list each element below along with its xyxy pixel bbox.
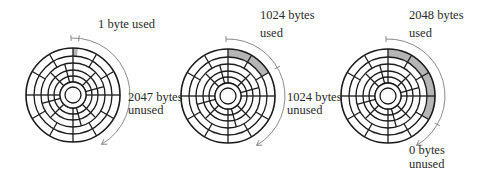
sector-line [401, 88, 419, 93]
sector-line [347, 112, 360, 120]
arrowhead-icon [102, 139, 108, 144]
sector-line [365, 124, 373, 137]
sector-line [205, 124, 213, 137]
sector-line [365, 55, 373, 68]
disk-2-unused-label-line1: 1024 bytes [287, 90, 342, 104]
sector-line [197, 99, 215, 104]
sector-line [241, 88, 259, 93]
hub-ring [380, 88, 396, 104]
sector-line [50, 54, 58, 67]
disk-3 [341, 36, 445, 145]
sector-line [357, 99, 375, 104]
hub-ring [65, 87, 81, 103]
disk-1-unused-label-line1: 2047 bytes [128, 90, 183, 104]
disk-2-used-label-line2: used [260, 26, 284, 40]
sector-line [347, 73, 360, 81]
sector-line [205, 55, 213, 68]
sector-line [42, 98, 60, 103]
sector-line [101, 72, 114, 80]
sector-line [380, 65, 385, 83]
used-sector-fill [388, 49, 435, 120]
arrow-split-tick [79, 35, 80, 41]
sector-line [187, 73, 200, 81]
used-sector-fill [73, 48, 78, 56]
sector-line [65, 64, 70, 82]
sector-line [404, 124, 412, 137]
sector-line [220, 65, 225, 83]
disk-3-used-label-line2: used [409, 26, 433, 40]
disk-2-used-label-line1: 1024 bytes [260, 8, 315, 22]
sector-line [89, 54, 97, 67]
sector-line [86, 87, 104, 92]
disk-3-unused-label-line1: 0 bytes [409, 143, 445, 157]
sector-line [50, 123, 58, 136]
sector-line [101, 111, 114, 119]
sector-line [89, 123, 97, 136]
sector-line [244, 124, 252, 137]
disk-3-used-label-line1: 2048 bytes [409, 8, 464, 22]
disk-1-used-label: 1 byte used [98, 17, 156, 31]
sector-line [256, 112, 269, 120]
disk-2-unused-label-line2: unused [287, 103, 323, 117]
sector-line [231, 109, 236, 127]
disk-2 [181, 36, 285, 145]
disk-1 [26, 35, 130, 144]
sector-line [32, 72, 45, 80]
arrowhead-icon [257, 140, 263, 145]
sector-line [76, 108, 81, 126]
disk-1-unused-label-line2: unused [128, 103, 164, 117]
disk-usage-diagram: 1 byte used 2047 bytes unused 1024 bytes… [0, 0, 483, 179]
sector-line [391, 109, 396, 127]
disk-3-unused-label-line2: unused [409, 157, 445, 171]
hub-ring [220, 88, 236, 104]
sector-line [187, 112, 200, 120]
sector-line [32, 111, 45, 119]
